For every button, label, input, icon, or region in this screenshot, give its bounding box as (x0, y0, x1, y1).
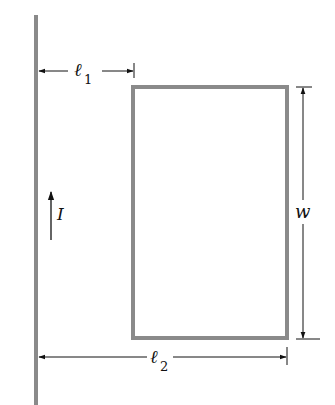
l2-label: ℓ (150, 346, 158, 367)
rectangular-loop (133, 87, 287, 338)
l1-subscript: 1 (84, 72, 92, 87)
l1-label: ℓ (74, 59, 82, 80)
current-label: I (56, 204, 64, 224)
diagram-canvas: I ℓ 1 ℓ 2 w (0, 0, 335, 405)
straight-wire (34, 15, 38, 405)
wire-loop-diagram: I ℓ 1 ℓ 2 w (0, 0, 335, 405)
l2-subscript: 2 (160, 359, 168, 374)
w-label: w (295, 201, 311, 222)
